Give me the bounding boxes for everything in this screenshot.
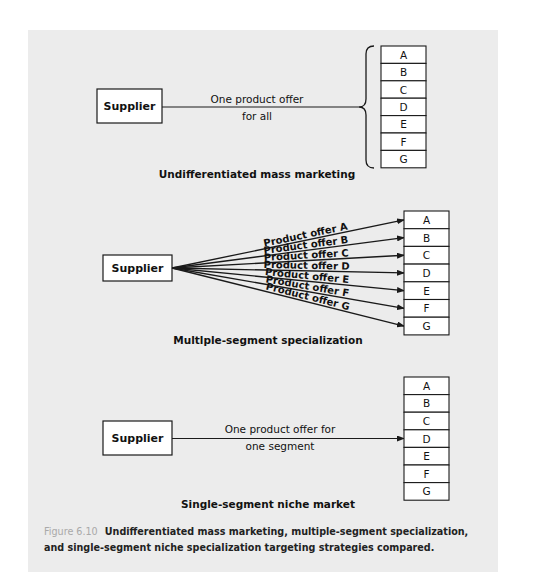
figure-label: Figure 6.10 bbox=[44, 526, 98, 537]
section-title: Multlple-segment specialization bbox=[173, 334, 362, 346]
connector-text-line2: for all bbox=[242, 110, 272, 122]
segment-label: G bbox=[422, 320, 430, 332]
segment-label: F bbox=[423, 302, 429, 314]
segment-cell-c: C bbox=[404, 246, 449, 264]
section-single-segment: Supplier One product offer for one segme… bbox=[103, 377, 449, 510]
segment-label: F bbox=[423, 468, 429, 480]
segment-label: A bbox=[400, 49, 408, 61]
segment-cell-e: E bbox=[404, 282, 449, 300]
segment-label: D bbox=[399, 101, 407, 113]
segment-label: F bbox=[400, 136, 406, 148]
segment-cell-g: G bbox=[381, 150, 426, 167]
segment-cell-f: F bbox=[404, 465, 449, 483]
segment-label: A bbox=[423, 380, 431, 392]
segment-cell-d: D bbox=[404, 264, 449, 282]
segment-cell-a: A bbox=[404, 377, 449, 395]
segment-cell-a: A bbox=[404, 211, 449, 229]
connector-text-line1: One product offer for bbox=[225, 423, 336, 435]
segment-cell-b: B bbox=[404, 395, 449, 413]
section-undifferentiated: Supplier One product offer for all ABCDE… bbox=[97, 46, 426, 180]
segment-cell-d: D bbox=[381, 98, 426, 115]
segment-cell-c: C bbox=[404, 412, 449, 430]
segment-cell-d: D bbox=[404, 430, 449, 448]
segment-label: B bbox=[423, 232, 430, 244]
segment-stack: ABCDEFG bbox=[381, 46, 426, 168]
section-title: Undifferentiated mass marketing bbox=[159, 168, 355, 180]
segment-label: C bbox=[400, 84, 407, 96]
figure-caption: Figure 6.10 Undifferentiated mass market… bbox=[44, 524, 484, 556]
segment-cell-g: G bbox=[404, 483, 449, 501]
segment-label: G bbox=[399, 153, 407, 165]
section-multiple-segment: Supplier Product offer AProduct offer BP… bbox=[103, 211, 449, 346]
supplier-label: Supplier bbox=[104, 100, 157, 113]
connector-text-line1: One product offer bbox=[211, 93, 305, 105]
connector-text-line2: one segment bbox=[246, 440, 315, 452]
segment-cell-a: A bbox=[381, 46, 426, 63]
segment-label: D bbox=[422, 433, 430, 445]
segment-cell-b: B bbox=[381, 63, 426, 80]
supplier-label: Supplier bbox=[112, 432, 165, 445]
curly-brace bbox=[359, 46, 374, 168]
segment-label: G bbox=[422, 485, 430, 497]
segment-stack: ABCDEFG bbox=[404, 211, 449, 335]
supplier-label: Supplier bbox=[112, 262, 165, 275]
segment-cell-c: C bbox=[381, 81, 426, 98]
segment-label: B bbox=[400, 66, 407, 78]
segment-label: C bbox=[423, 415, 430, 427]
segment-label: E bbox=[400, 118, 407, 130]
segment-label: B bbox=[423, 397, 430, 409]
segment-cell-e: E bbox=[404, 447, 449, 465]
segment-stack: ABCDEFG bbox=[404, 377, 449, 500]
segment-cell-f: F bbox=[404, 300, 449, 318]
segment-cell-b: B bbox=[404, 229, 449, 247]
segment-label: C bbox=[423, 249, 430, 261]
segment-label: E bbox=[423, 450, 430, 462]
diagram-canvas: Supplier One product offer for all ABCDE… bbox=[0, 0, 555, 581]
segment-cell-f: F bbox=[381, 133, 426, 150]
segment-cell-e: E bbox=[381, 116, 426, 133]
section-title: Single-segment niche market bbox=[181, 498, 355, 510]
segment-cell-g: G bbox=[404, 317, 449, 335]
segment-label: D bbox=[422, 267, 430, 279]
offer-arrows: Product offer AProduct offer BProduct of… bbox=[172, 220, 404, 326]
segment-label: E bbox=[423, 285, 430, 297]
segment-label: A bbox=[423, 214, 431, 226]
caption-text: Undifferentiated mass marketing, multipl… bbox=[44, 526, 468, 553]
